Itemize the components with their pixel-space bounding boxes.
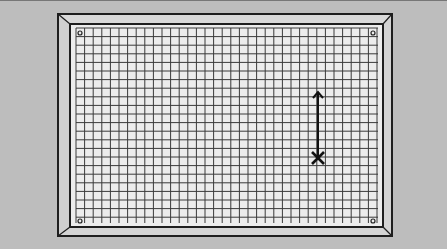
frame-bevel-right <box>383 14 392 236</box>
frame-bevel-bottom <box>58 227 392 236</box>
grid-panel-diagram <box>0 0 447 249</box>
frame-bevel-left <box>58 14 70 236</box>
frame-bevel-top <box>58 14 392 24</box>
inner-panel <box>70 24 383 227</box>
